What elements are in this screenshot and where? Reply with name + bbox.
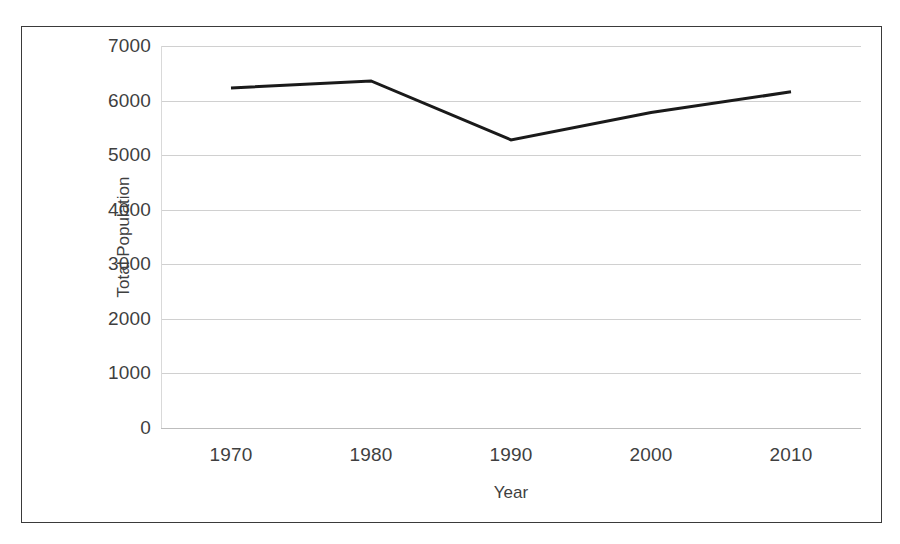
line-chart-figure: 01000200030004000500060007000 1970198019… <box>0 0 900 544</box>
y-tick-label-7000: 7000 <box>61 36 151 55</box>
y-tick-label-0: 0 <box>61 418 151 437</box>
y-tick-label-5000: 5000 <box>61 145 151 164</box>
y-tick-label-6000: 6000 <box>61 91 151 110</box>
y-tick-label-1000: 1000 <box>61 363 151 382</box>
x-tick-label-1970: 1970 <box>186 444 276 466</box>
x-axis-title: Year <box>161 482 861 504</box>
x-tick-label-1980: 1980 <box>326 444 416 466</box>
gridline-0 <box>161 428 861 429</box>
y-tick-label-2000: 2000 <box>61 309 151 328</box>
x-tick-label-2010: 2010 <box>746 444 836 466</box>
y-axis-tick-labels: 01000200030004000500060007000 <box>51 46 151 428</box>
chart-outer-border: 01000200030004000500060007000 1970198019… <box>21 26 882 523</box>
series-total-population <box>161 46 861 428</box>
x-axis-tick-labels: 19701980199020002010 <box>161 444 861 470</box>
series-line-total-population <box>231 81 791 140</box>
y-axis-title: Total Population <box>112 137 136 337</box>
y-tick-label-4000: 4000 <box>61 200 151 219</box>
x-tick-label-1990: 1990 <box>466 444 556 466</box>
x-tick-label-2000: 2000 <box>606 444 696 466</box>
y-tick-label-3000: 3000 <box>61 254 151 273</box>
plot-area <box>161 46 861 428</box>
